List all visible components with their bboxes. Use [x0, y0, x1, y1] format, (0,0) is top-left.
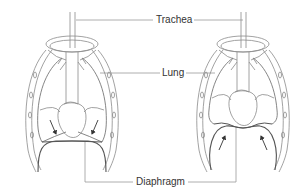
right-heart	[229, 91, 257, 126]
right-ribcage-right-wall	[269, 50, 289, 172]
left-down-arrows	[50, 120, 98, 134]
right-trachea	[241, 12, 246, 48]
arrow-up-icon	[261, 136, 267, 150]
diaphragm-label: Diaphragm	[134, 176, 187, 187]
breathing-diagram	[0, 0, 308, 192]
trachea-label: Trachea	[154, 14, 194, 25]
left-trachea	[70, 12, 75, 48]
left-thorax	[26, 12, 119, 172]
arrow-down-icon	[50, 120, 56, 134]
left-ribcage-left-wall	[26, 50, 46, 172]
right-ribcage-left-wall	[197, 50, 217, 172]
lung-label: Lung	[160, 67, 186, 78]
left-ribcage-right-wall	[98, 50, 118, 172]
arrow-up-icon	[219, 136, 225, 150]
left-diaphragm	[38, 141, 106, 172]
leader-lines	[76, 20, 243, 182]
right-up-arrows	[219, 136, 267, 150]
left-heart	[58, 103, 86, 138]
left-lung-right	[78, 58, 106, 142]
arrow-down-icon	[92, 120, 98, 134]
